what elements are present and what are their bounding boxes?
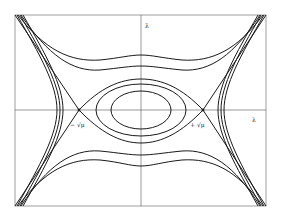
separatrices: [15, 15, 266, 206]
plot-frame: [15, 15, 266, 206]
side-trajectories-right: [218, 15, 264, 206]
open-trajectories-bottom: [18, 151, 263, 206]
phase-portrait: λ̇ λ − √μ + √μ: [0, 0, 281, 219]
saddle-point-right: [202, 109, 205, 112]
saddle-label-positive: + √μ: [190, 121, 205, 129]
saddle-point-left: [78, 109, 81, 112]
open-trajectories-top: [18, 15, 263, 70]
side-trajectories-left: [17, 15, 63, 206]
saddle-label-negative: − √μ: [70, 121, 85, 129]
y-axis-label: λ̇: [145, 22, 149, 29]
x-axis-label: λ: [252, 116, 256, 123]
